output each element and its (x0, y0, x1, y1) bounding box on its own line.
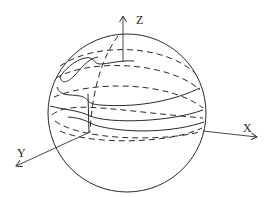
y-axis (16, 132, 90, 166)
sphere-figure (0, 0, 270, 197)
front-meridian (88, 94, 89, 133)
sphere-diagram: Z X Y (0, 0, 270, 197)
y-axis-label: Y (17, 147, 26, 159)
latitude-back-5 (55, 121, 200, 138)
sphere-outline (48, 34, 206, 192)
latitude-back-3 (54, 86, 203, 108)
x-axis-label: X (243, 122, 252, 134)
wavy-curve-lower (50, 106, 203, 121)
z-axis-label: Z (136, 14, 143, 26)
latitude-back-6 (60, 128, 202, 141)
latitude-back-1 (60, 50, 196, 74)
